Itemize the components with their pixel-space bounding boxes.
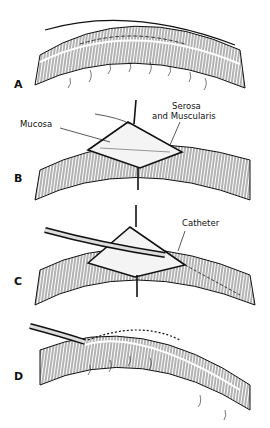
label-mucosa: Mucosa [20,120,52,129]
incision-illustration [0,100,270,205]
panel-b: B Mucosa Serosa and Muscularis [0,100,270,205]
label-muscularis: and Muscularis [152,112,216,121]
panel-c: C Catheter [0,205,270,310]
panel-letter-c: C [14,275,22,288]
bowel-segment-illustration [0,0,270,100]
catheter-insertion-illustration [0,205,270,310]
panel-d: D [0,310,270,428]
panel-a: A [0,0,270,100]
panel-letter-d: D [14,370,23,383]
label-catheter: Catheter [182,219,219,228]
panel-letter-b: B [14,172,22,185]
closed-tunnel-illustration [0,310,270,428]
panel-letter-a: A [14,78,23,91]
label-serosa: Serosa [172,102,201,111]
